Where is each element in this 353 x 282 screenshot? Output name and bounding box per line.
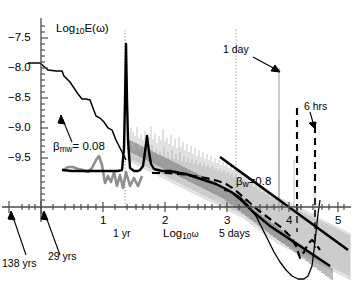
spectrum-figure: −7.5 −8.0 −8.5 −9.0 −9.5 1 2 3 4 5 Log10… bbox=[0, 0, 353, 282]
arrow-138yrs bbox=[8, 211, 26, 255]
arrow-29yrs bbox=[41, 211, 60, 255]
xtick-label-2: 2 bbox=[162, 215, 168, 227]
period-label-5days: 5 days bbox=[219, 228, 250, 239]
beta-mw-symbol: β bbox=[53, 140, 60, 152]
ytick-label--7.5: −7.5 bbox=[8, 32, 31, 44]
x-axis-title-log: Log bbox=[163, 227, 182, 239]
beta-mw-label: βmw= 0.08 bbox=[53, 141, 105, 154]
xtick-label-1: 1 bbox=[100, 215, 106, 227]
arrow-beta-mw bbox=[58, 115, 72, 142]
axes bbox=[2, 18, 351, 222]
period-label-6hrs: 6 hrs bbox=[304, 101, 327, 112]
x-axis-title-base: 10 bbox=[182, 232, 191, 241]
y-axis-title-base: 10 bbox=[75, 27, 84, 36]
y-axis-title-log: Log bbox=[56, 22, 75, 34]
period-label-1day: 1 day bbox=[223, 44, 249, 55]
period-label-138yrs: 138 yrs bbox=[2, 258, 36, 269]
ytick-label--8.5: −8.5 bbox=[8, 92, 31, 104]
x-axis-title: Log10ω bbox=[163, 228, 199, 241]
x-axis-title-tail: ω bbox=[191, 229, 198, 239]
y-axis-title-tail: E(ω) bbox=[84, 22, 108, 34]
period-label-29yrs: 29 yrs bbox=[48, 251, 77, 262]
ytick-label--8.0: −8.0 bbox=[8, 62, 31, 74]
ytick-label--9.0: −9.0 bbox=[8, 122, 31, 134]
beta-mw-subscript: mw bbox=[60, 145, 73, 154]
beta-w-symbol: β bbox=[236, 175, 243, 187]
beta-w-value: =0.8 bbox=[249, 175, 272, 187]
xtick-label-5: 5 bbox=[335, 215, 341, 227]
arrow-1day bbox=[253, 57, 280, 72]
period-label-1yr: 1 yr bbox=[113, 228, 131, 239]
ytick-label--9.5: −9.5 bbox=[8, 152, 31, 164]
xtick-label-4: 4 bbox=[286, 215, 292, 227]
xtick-label-3: 3 bbox=[224, 215, 230, 227]
y-axis-title: Log10E(ω) bbox=[56, 23, 109, 36]
arrow-6hrs bbox=[309, 112, 316, 129]
beta-mw-value: = 0.08 bbox=[72, 140, 104, 152]
y-axis-ticks bbox=[41, 26, 48, 219]
beta-w-label: βw=0.8 bbox=[236, 176, 271, 189]
